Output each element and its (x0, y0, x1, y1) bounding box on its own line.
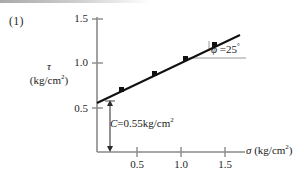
cohesion-arrow-head-down (107, 146, 113, 152)
data-point-2 (152, 71, 157, 76)
data-point-1 (119, 87, 124, 92)
data-point-3 (183, 56, 188, 61)
plot-svg (0, 0, 304, 178)
figure-container: (1) τ (kg/cm2) σ (kg/cm2) 0.5 1.0 1.5 0.… (0, 0, 304, 178)
data-point-4 (212, 42, 217, 47)
failure-envelope-line (97, 35, 240, 103)
